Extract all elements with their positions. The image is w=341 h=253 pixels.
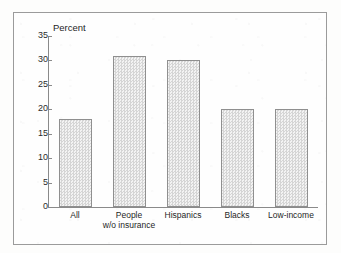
- bar: [275, 109, 308, 207]
- bar-chart: Percent 05101520253035 AllPeoplew/o insu…: [0, 0, 341, 253]
- y-axis-tick-mark: [48, 207, 52, 208]
- y-axis-tick-label: 15: [2, 129, 48, 138]
- x-axis-label: Hispanics: [156, 211, 210, 221]
- x-axis-label-line: w/o insurance: [102, 221, 156, 231]
- y-axis-tick-label: 10: [2, 153, 48, 162]
- x-axis-label-line: People: [116, 210, 142, 220]
- y-axis-tick-label: 5: [2, 178, 48, 187]
- x-axis-label-line: Blacks: [224, 210, 249, 220]
- bar: [167, 60, 200, 207]
- bar: [113, 56, 146, 207]
- y-axis-tick-mark: [48, 109, 52, 110]
- x-axis-label-line: All: [70, 210, 79, 220]
- x-axis-label: Low-income: [264, 211, 318, 221]
- x-axis-label-line: Low-income: [268, 210, 314, 220]
- y-axis-tick-label: 30: [2, 55, 48, 64]
- bar: [221, 109, 254, 207]
- x-axis-label: Blacks: [210, 211, 264, 221]
- y-axis-tick-mark: [48, 60, 52, 61]
- y-axis-tick-mark: [48, 85, 52, 86]
- x-axis-line: [48, 207, 318, 208]
- x-axis-label: All: [48, 211, 102, 221]
- x-axis-label-line: Hispanics: [165, 210, 202, 220]
- y-axis-tick-mark: [48, 183, 52, 184]
- y-axis-tick-mark: [48, 158, 52, 159]
- bar: [59, 119, 92, 207]
- y-axis-tick-mark: [48, 36, 52, 37]
- y-axis-tick-label: 20: [2, 104, 48, 113]
- y-axis-tick-mark: [48, 134, 52, 135]
- y-axis-title: Percent: [53, 22, 86, 33]
- y-axis-tick-label: 0: [2, 202, 48, 211]
- y-axis-tick-label: 25: [2, 80, 48, 89]
- x-axis-label: Peoplew/o insurance: [102, 211, 156, 230]
- y-axis-tick-label: 35: [2, 31, 48, 40]
